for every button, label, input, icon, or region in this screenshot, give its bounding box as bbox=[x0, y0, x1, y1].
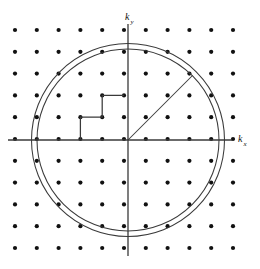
lattice-dot bbox=[13, 50, 17, 54]
lattice-dot bbox=[100, 72, 104, 76]
lattice-dot bbox=[100, 202, 104, 206]
lattice-dot bbox=[187, 28, 191, 32]
lattice-dot bbox=[166, 115, 170, 119]
lattice-dot bbox=[35, 72, 39, 76]
lattice-dot bbox=[144, 224, 148, 228]
lattice-dot bbox=[166, 93, 170, 97]
lattice-dot bbox=[122, 246, 126, 250]
x-axis-label-main: k bbox=[238, 133, 243, 144]
lattice-dot bbox=[144, 72, 148, 76]
lattice-dot bbox=[144, 159, 148, 163]
lattice-dot bbox=[144, 28, 148, 32]
lattice-dot bbox=[35, 224, 39, 228]
lattice-dot bbox=[209, 224, 213, 228]
lattice-dot bbox=[122, 50, 126, 54]
lattice-dot bbox=[13, 202, 17, 206]
lattice-dot bbox=[35, 246, 39, 250]
lattice-dot bbox=[144, 181, 148, 185]
lattice-dot bbox=[78, 93, 82, 97]
lattice-dot bbox=[187, 93, 191, 97]
lattice-dot bbox=[166, 202, 170, 206]
lattice-dot bbox=[187, 181, 191, 185]
lattice-dot bbox=[13, 246, 17, 250]
reciprocal-lattice-plot: k x k y bbox=[0, 0, 260, 269]
lattice-dot bbox=[187, 50, 191, 54]
lattice-dot bbox=[187, 115, 191, 119]
lattice-dot bbox=[35, 93, 39, 97]
lattice-dot bbox=[231, 72, 235, 76]
lattice-dot bbox=[231, 115, 235, 119]
lattice-dot bbox=[78, 246, 82, 250]
lattice-dot bbox=[166, 159, 170, 163]
lattice-dot bbox=[35, 159, 39, 163]
lattice-dot bbox=[122, 202, 126, 206]
lattice-dot bbox=[166, 28, 170, 32]
lattice-dot bbox=[35, 50, 39, 54]
lattice-dot bbox=[13, 181, 17, 185]
lattice-dot bbox=[57, 181, 61, 185]
lattice-dot bbox=[231, 28, 235, 32]
lattice-dot bbox=[187, 246, 191, 250]
plot-background bbox=[0, 0, 260, 269]
lattice-dot bbox=[100, 181, 104, 185]
lattice-dot bbox=[57, 93, 61, 97]
lattice-dot bbox=[166, 181, 170, 185]
lattice-dot bbox=[35, 202, 39, 206]
lattice-dot bbox=[13, 72, 17, 76]
lattice-dot bbox=[209, 202, 213, 206]
lattice-dot bbox=[231, 93, 235, 97]
lattice-dot bbox=[57, 159, 61, 163]
lattice-dot bbox=[144, 93, 148, 97]
lattice-dot bbox=[122, 115, 126, 119]
lattice-dot bbox=[57, 224, 61, 228]
figure-container: k x k y bbox=[0, 0, 260, 269]
lattice-dot bbox=[122, 28, 126, 32]
y-axis-label-main: k bbox=[125, 11, 130, 22]
lattice-dot bbox=[166, 72, 170, 76]
lattice-dot bbox=[209, 246, 213, 250]
lattice-dot bbox=[78, 72, 82, 76]
lattice-dot bbox=[35, 115, 39, 119]
lattice-dot bbox=[13, 115, 17, 119]
lattice-dot bbox=[13, 224, 17, 228]
lattice-dot bbox=[144, 246, 148, 250]
lattice-dot bbox=[231, 50, 235, 54]
lattice-dot bbox=[78, 202, 82, 206]
lattice-dot bbox=[100, 28, 104, 32]
lattice-dot bbox=[13, 159, 17, 163]
lattice-dot bbox=[209, 159, 213, 163]
lattice-dot bbox=[122, 159, 126, 163]
lattice-dot bbox=[122, 181, 126, 185]
lattice-dot bbox=[78, 159, 82, 163]
lattice-dot bbox=[100, 159, 104, 163]
lattice-dot bbox=[231, 202, 235, 206]
lattice-dot bbox=[13, 28, 17, 32]
lattice-dot bbox=[78, 181, 82, 185]
lattice-dot bbox=[144, 115, 148, 119]
lattice-dot bbox=[209, 50, 213, 54]
lattice-dot bbox=[231, 246, 235, 250]
lattice-dot bbox=[78, 28, 82, 32]
lattice-dot bbox=[187, 224, 191, 228]
lattice-dot bbox=[57, 28, 61, 32]
lattice-dot bbox=[35, 28, 39, 32]
lattice-dot bbox=[231, 224, 235, 228]
lattice-dot bbox=[122, 72, 126, 76]
lattice-dot bbox=[209, 72, 213, 76]
lattice-dot bbox=[57, 115, 61, 119]
lattice-dot bbox=[13, 93, 17, 97]
lattice-dot bbox=[122, 224, 126, 228]
lattice-dot bbox=[231, 181, 235, 185]
lattice-dot bbox=[100, 246, 104, 250]
caption-fragment bbox=[0, 257, 260, 269]
lattice-dot bbox=[231, 159, 235, 163]
lattice-dot bbox=[57, 50, 61, 54]
lattice-dot bbox=[166, 246, 170, 250]
lattice-dot bbox=[209, 115, 213, 119]
lattice-dot bbox=[209, 28, 213, 32]
lattice-dot bbox=[187, 159, 191, 163]
lattice-dot bbox=[144, 202, 148, 206]
lattice-dot bbox=[57, 246, 61, 250]
lattice-dot bbox=[35, 181, 39, 185]
lattice-dot bbox=[78, 50, 82, 54]
